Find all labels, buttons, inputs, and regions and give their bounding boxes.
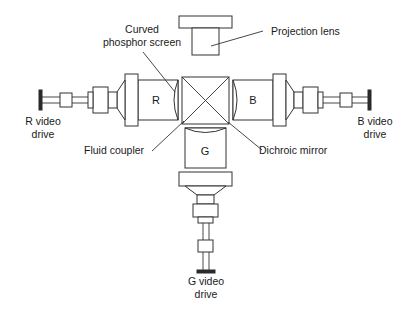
dichroic-mirror-label: Dichroic mirror bbox=[259, 144, 327, 157]
projection-crt-diagram: R B G bbox=[0, 0, 406, 315]
dichroic-cube bbox=[182, 77, 229, 124]
b-video-drive-label: B video drive bbox=[350, 115, 400, 141]
red-tube-letter: R bbox=[152, 94, 160, 106]
g-video-drive-label: G video drive bbox=[181, 275, 231, 301]
fluid-coupler-label: Fluid coupler bbox=[84, 144, 144, 157]
green-tube-letter: G bbox=[201, 145, 210, 157]
projection-lens-label: Projection lens bbox=[271, 25, 340, 38]
blue-tube-letter: B bbox=[249, 94, 256, 106]
r-video-drive-label: R video drive bbox=[18, 115, 68, 141]
curved-phosphor-screen-label: Curved phosphor screen bbox=[92, 23, 192, 49]
